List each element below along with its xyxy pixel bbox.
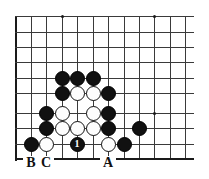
grid-line-vertical-10: [170, 16, 171, 160]
stone-black[interactable]: [117, 137, 132, 152]
point-label-a: A: [100, 156, 116, 170]
stone-black[interactable]: [39, 106, 54, 121]
stone-black[interactable]: [101, 121, 116, 136]
move-number-label: 1: [71, 138, 84, 151]
stone-white[interactable]: [86, 106, 101, 121]
point-label-c: C: [38, 156, 54, 170]
point-label-b: B: [23, 156, 39, 170]
stone-black[interactable]: [39, 121, 54, 136]
grid-line-horizontal-3: [15, 62, 194, 63]
stone-white[interactable]: [55, 106, 70, 121]
stone-white[interactable]: [39, 137, 54, 152]
stone-black[interactable]: [86, 71, 101, 86]
grid-line-vertical-11: [185, 16, 186, 160]
grid-line-horizontal-1: [15, 32, 194, 33]
stone-white[interactable]: [70, 121, 85, 136]
grid-line-horizontal-0: [15, 16, 194, 17]
stone-black[interactable]: [70, 71, 85, 86]
grid-line-vertical-8: [139, 16, 140, 160]
stone-black[interactable]: [132, 121, 147, 136]
stone-black[interactable]: [24, 137, 39, 152]
stone-black[interactable]: [55, 71, 70, 86]
star-point-0: [61, 15, 64, 18]
grid-line-vertical-0: [15, 16, 17, 161]
star-point-2: [153, 112, 156, 115]
stone-black[interactable]: [101, 86, 116, 101]
grid-line-horizontal-4: [15, 78, 194, 79]
grid-line-vertical-9: [154, 16, 155, 160]
stone-black[interactable]: [101, 106, 116, 121]
stone-white[interactable]: [86, 121, 101, 136]
stone-white[interactable]: [70, 86, 85, 101]
stone-white[interactable]: [86, 86, 101, 101]
grid-line-horizontal-2: [15, 47, 194, 48]
stone-black[interactable]: [55, 86, 70, 101]
stone-white[interactable]: [55, 121, 70, 136]
go-board: 1BCA: [0, 0, 209, 179]
stone-white[interactable]: [101, 137, 116, 152]
stone-black-numbered[interactable]: 1: [70, 137, 85, 152]
star-point-1: [153, 15, 156, 18]
